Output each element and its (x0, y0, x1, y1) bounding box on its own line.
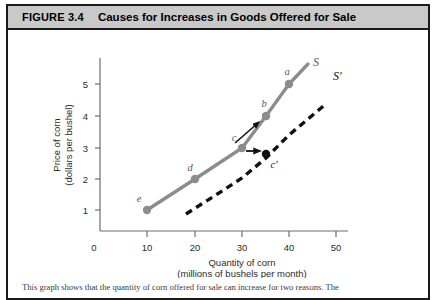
figure-container: FIGURE 3.4 Causes for Increases in Goods… (6, 4, 430, 300)
y-tick-label-5: 5 (83, 79, 88, 90)
figure-number-label: FIGURE 3.4 (22, 11, 84, 23)
point-label-c-prime: c' (271, 159, 279, 170)
curve-label-s-prime: S' (333, 69, 342, 83)
point-label-d: d (187, 162, 193, 173)
data-point-d (191, 175, 199, 183)
curve-label-s: S (313, 55, 319, 69)
x-tick-label-40: 40 (284, 242, 295, 253)
y-tick-label-1: 1 (83, 205, 88, 216)
x-axis-tick-labels: 0 10 20 30 40 50 (91, 242, 341, 253)
data-point-b (262, 112, 270, 120)
x-tick-label-10: 10 (142, 242, 153, 253)
y-tick-label-2: 2 (83, 174, 88, 185)
x-tick-label-0: 0 (91, 242, 96, 253)
x-axis-subtitle: (millions of bushels per month) (177, 268, 306, 278)
curve-s-prime (186, 103, 327, 214)
y-tick-label-3: 3 (83, 143, 88, 154)
point-label-b: b (261, 98, 266, 109)
figure-title-bar: FIGURE 3.4 Causes for Increases in Goods… (8, 6, 428, 30)
point-label-a: a (284, 66, 289, 77)
y-axis-title: Price of corn (51, 118, 62, 171)
data-point-c (238, 144, 246, 152)
y-axis-ticks (95, 84, 100, 210)
data-point-e (143, 206, 151, 214)
x-tick-label-20: 20 (190, 242, 201, 253)
y-axis-tick-labels: 5 4 3 2 1 (83, 79, 88, 216)
x-axis-title: Quantity of corn (208, 257, 275, 268)
figure-caption: This graph shows that the quantity of co… (22, 282, 420, 298)
supply-curve-chart: 5 4 3 2 1 0 10 20 30 40 50 (8, 30, 432, 278)
x-tick-label-30: 30 (237, 242, 248, 253)
y-axis-subtitle: (dollars per bushel) (63, 104, 74, 185)
y-tick-label-4: 4 (83, 111, 88, 122)
data-point-c-prime (262, 150, 270, 158)
x-tick-label-50: 50 (331, 242, 342, 253)
x-axis-ticks (147, 231, 336, 237)
data-point-a (285, 80, 293, 88)
chart-plot-area: 5 4 3 2 1 0 10 20 30 40 50 (8, 30, 428, 278)
point-label-e: e (137, 193, 142, 204)
figure-title: Causes for Increases in Goods Offered fo… (98, 11, 356, 23)
